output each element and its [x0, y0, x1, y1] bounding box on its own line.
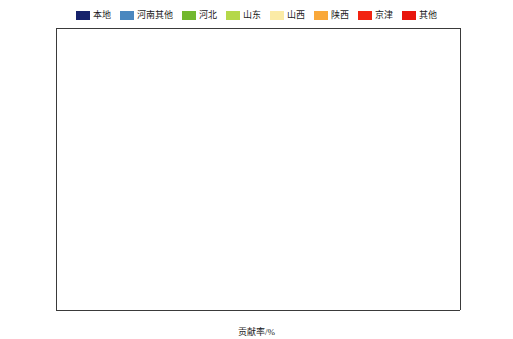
legend-swatch-icon: [402, 11, 416, 20]
legend-swatch-icon: [314, 11, 328, 20]
axis-top: [56, 28, 460, 29]
chart-root: 本地河南其他河北山东山西陕西京津其他 贡献率/%: [0, 0, 513, 339]
legend-item-5[interactable]: 陕西: [314, 11, 349, 20]
chart-legend: 本地河南其他河北山东山西陕西京津其他: [0, 11, 513, 20]
legend-label: 河南其他: [137, 11, 173, 20]
legend-swatch-icon: [120, 11, 134, 20]
legend-item-0[interactable]: 本地: [76, 11, 111, 20]
y-axis-labels: [0, 28, 54, 310]
x-axis-title: 贡献率/%: [0, 325, 513, 338]
legend-swatch-icon: [182, 11, 196, 20]
plot-area: [56, 28, 461, 310]
legend-label: 本地: [93, 11, 111, 20]
legend-label: 陕西: [331, 11, 349, 20]
axis-bottom: [56, 310, 460, 311]
axis-right: [460, 28, 461, 310]
legend-item-3[interactable]: 山东: [226, 11, 261, 20]
legend-item-6[interactable]: 京津: [358, 11, 393, 20]
legend-item-4[interactable]: 山西: [270, 11, 305, 20]
legend-item-7[interactable]: 其他: [402, 11, 437, 20]
legend-swatch-icon: [270, 11, 284, 20]
legend-label: 河北: [199, 11, 217, 20]
legend-label: 山东: [243, 11, 261, 20]
legend-swatch-icon: [76, 11, 90, 20]
legend-swatch-icon: [358, 11, 372, 20]
legend-label: 其他: [419, 11, 437, 20]
legend-label: 山西: [287, 11, 305, 20]
legend-swatch-icon: [226, 11, 240, 20]
legend-item-2[interactable]: 河北: [182, 11, 217, 20]
legend-label: 京津: [375, 11, 393, 20]
legend-item-1[interactable]: 河南其他: [120, 11, 173, 20]
